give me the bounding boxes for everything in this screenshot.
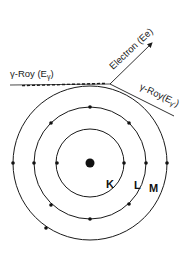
incoming-gamma-label: γ-Roy (Eγ) [10,68,54,81]
incoming-gamma-ray [10,83,110,85]
atom-diagram: γ-Roy (Eγ) Electron (Ee) γ-Roy(Eγ') K L … [0,0,193,255]
electron-label: Electron (Ee) [107,26,155,72]
shell-l-label: L [134,179,141,191]
shell-m-label: M [149,182,158,194]
scattered-gamma-label: γ-Roy(Eγ') [137,81,181,111]
shell-k-label: K [106,178,114,190]
nucleus [86,159,95,168]
